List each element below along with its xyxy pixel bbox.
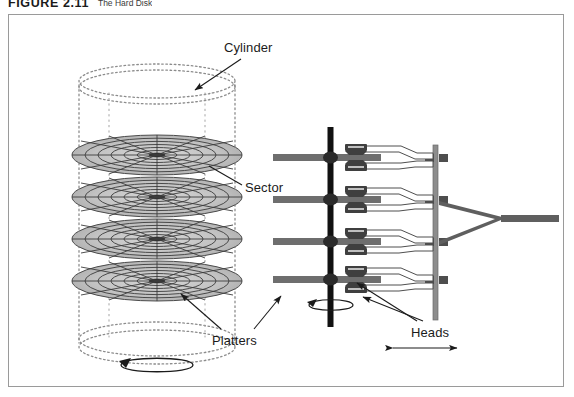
spindle-hub [323, 236, 338, 248]
cylinder-top-ellipse-outer [79, 64, 235, 98]
head-arm [357, 161, 433, 169]
figure-caption: FIGURE 2.11The Hard Disk [8, 0, 152, 7]
platters-leader-right [254, 296, 281, 329]
head [345, 202, 367, 213]
spindle-hub [323, 194, 338, 206]
platter-disc [72, 135, 242, 175]
figure-title: The Hard Disk [98, 0, 152, 7]
platter-side-bars [273, 154, 381, 283]
platter-disc [72, 219, 242, 259]
platter-disc [72, 177, 242, 217]
cylinder-top-ellipse-inner [79, 70, 235, 104]
read-write-heads [345, 144, 367, 293]
actuator-wedge [439, 201, 506, 245]
heads-leader-lower [363, 297, 423, 321]
label-sector: Sector [245, 180, 283, 195]
head [345, 228, 367, 239]
label-heads: Heads [411, 325, 449, 340]
figure-frame: Cylinder Sector Platters Heads [8, 14, 564, 387]
actuator-bar [433, 145, 438, 320]
head [345, 266, 367, 277]
label-platters: Platters [212, 333, 257, 348]
platter-rotation-arrow-icon [119, 358, 193, 372]
head-arm [357, 245, 433, 253]
head-arm [357, 203, 433, 211]
figure-number: FIGURE 2.11 [8, 0, 89, 7]
spindle [323, 127, 338, 327]
head [345, 186, 367, 197]
hard-disk-diagram [9, 15, 565, 388]
platter-disc [72, 261, 242, 301]
head [345, 160, 367, 171]
actuator-assembly [425, 145, 559, 320]
spindle-hub [323, 274, 338, 286]
actuator-pivot-arm [501, 215, 559, 222]
label-cylinder: Cylinder [224, 40, 272, 55]
head-arms [357, 146, 433, 291]
platter-stack-3d [72, 135, 242, 301]
head [345, 244, 367, 255]
figure-page: FIGURE 2.11The Hard Disk [0, 0, 574, 397]
spindle-hub [323, 152, 338, 164]
head [345, 144, 367, 155]
